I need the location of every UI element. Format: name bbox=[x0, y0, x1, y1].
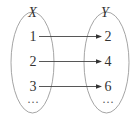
mapping-arrows bbox=[39, 34, 102, 88]
arrow-2-to-4 bbox=[39, 59, 102, 63]
x-element-3: 3 bbox=[30, 79, 37, 94]
arrow-3-to-6 bbox=[39, 84, 102, 88]
y-element-2: 2 bbox=[105, 29, 112, 44]
set-y: Y 2 4 6 ··· bbox=[84, 5, 129, 113]
y-element-6: 6 bbox=[105, 79, 112, 94]
set-x-label: X bbox=[27, 5, 37, 20]
arrow-1-to-2 bbox=[39, 34, 102, 38]
y-continuation: ··· bbox=[102, 95, 114, 109]
x-element-2: 2 bbox=[30, 54, 37, 69]
x-continuation: ··· bbox=[27, 95, 39, 109]
mapping-diagram: X 1 2 3 ··· Y 2 4 6 ··· bbox=[0, 0, 138, 119]
arrowhead-icon bbox=[96, 59, 102, 63]
arrowhead-icon bbox=[96, 34, 102, 38]
arrowhead-icon bbox=[96, 84, 102, 88]
y-element-4: 4 bbox=[105, 54, 112, 69]
x-element-1: 1 bbox=[30, 29, 37, 44]
set-x: X 1 2 3 ··· bbox=[11, 5, 54, 113]
